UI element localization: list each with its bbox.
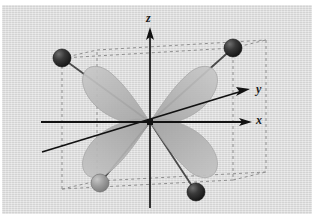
ligand-bottom-right — [187, 183, 205, 201]
x-axis-label: x — [256, 114, 262, 126]
ligand-top-right — [224, 39, 242, 57]
orbital-diagram — [0, 0, 315, 222]
figure-container: z y x — [0, 0, 315, 222]
metal-center-marker — [147, 119, 153, 125]
y-axis-label: y — [256, 83, 261, 95]
lobe-upper-left-icon — [83, 66, 150, 125]
z-axis-label: z — [146, 12, 151, 24]
lobe-lower-left-icon — [83, 119, 150, 178]
ligand-bottom-left — [91, 174, 109, 192]
lobe-lower-right-icon — [150, 119, 217, 178]
ligand-top-left — [53, 49, 71, 67]
